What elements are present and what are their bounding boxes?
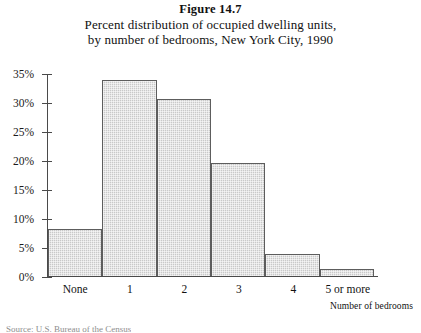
figure-caption-line-1: Percent distribution of occupied dwellin… [0, 17, 421, 32]
bar-5-or-more [320, 269, 374, 276]
bar-2 [157, 99, 211, 276]
bar-slot [48, 74, 102, 276]
x-axis-label: 4 [266, 283, 321, 295]
bar-slot [265, 74, 319, 276]
bar-slot [102, 74, 156, 276]
x-axis-label: 2 [157, 283, 212, 295]
y-axis-tick-label: 25% [13, 126, 34, 138]
plot-area: 0%5%10%15%20%25%30%35% [47, 74, 374, 277]
figure-number: Figure 14.7 [0, 2, 421, 17]
bar-none [48, 229, 102, 276]
y-axis-tick-label: 15% [13, 184, 34, 196]
x-axis-title: Number of bedrooms [0, 301, 413, 311]
figure-title-block: Figure 14.7 Percent distribution of occu… [0, 2, 421, 47]
figure-caption-line-2: by number of bedrooms, New York City, 19… [0, 32, 421, 47]
source-note: Source: U.S. Bureau of the Census [6, 324, 131, 333]
y-axis-tick-label: 10% [13, 213, 34, 225]
bar-3 [211, 163, 265, 276]
bar-1 [102, 80, 156, 276]
bar-4 [265, 254, 319, 276]
y-axis-tick: 0% [42, 277, 52, 278]
x-axis-tick-labels: None12345 or more [48, 283, 375, 295]
x-axis-label: 1 [103, 283, 158, 295]
x-axis-label: 5 or more [321, 283, 376, 295]
bar-slot [157, 74, 211, 276]
x-axis-line [47, 276, 378, 277]
figure-container: Figure 14.7 Percent distribution of occu… [0, 0, 421, 333]
bar-slot [211, 74, 265, 276]
y-axis-tick-label: 20% [13, 155, 34, 167]
y-axis-tick-label: 30% [13, 97, 34, 109]
x-axis-label: None [48, 283, 103, 295]
bar-slot [320, 74, 374, 276]
bar-series [48, 74, 374, 276]
y-axis-tick-label: 5% [19, 242, 34, 254]
x-axis-label: 3 [212, 283, 267, 295]
y-axis-tick-label: 35% [13, 68, 34, 80]
y-axis-tick-label: 0% [19, 271, 34, 283]
